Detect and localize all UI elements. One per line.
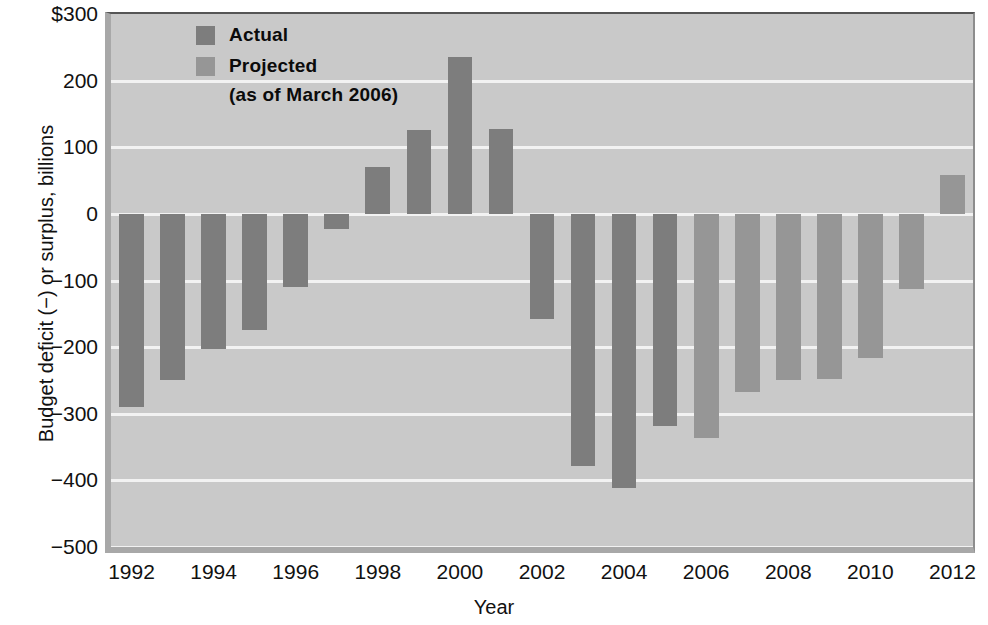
legend-swatch-projected-icon [196,57,215,76]
bar-2004 [612,214,637,488]
legend-note-projected-date: (as of March 2006) [229,84,398,106]
y-tick-300: $300 [2,3,98,24]
bar-2007 [735,214,760,392]
x-tick-2006: 2006 [661,560,751,584]
legend-item-projected: Projected [196,55,398,77]
gridline [111,413,973,416]
bar-2001 [489,129,514,214]
gridline [111,546,973,549]
x-tick-2004: 2004 [579,560,669,584]
bar-2005 [653,214,678,426]
x-tick-1998: 1998 [333,560,423,584]
x-axis-title: Year [0,596,988,619]
bar-1998 [365,167,390,214]
bar-2010 [858,214,883,358]
bar-1997 [324,214,349,229]
bar-1993 [160,214,185,381]
bar-1999 [407,130,432,214]
bar-2011 [899,214,924,289]
gridline [111,479,973,482]
legend-label-actual: Actual [229,24,288,46]
chart-legend: Actual Projected (as of March 2006) [196,24,398,106]
x-tick-2000: 2000 [415,560,505,584]
bar-2002 [530,214,555,319]
bar-2003 [571,214,596,466]
x-tick-2008: 2008 [743,560,833,584]
legend-label-projected: Projected [229,55,317,77]
x-tick-1992: 1992 [87,560,177,584]
bar-2012 [940,175,965,214]
x-tick-2002: 2002 [497,560,587,584]
y-axis-title: Budget deficit (−) or surplus, billions [35,24,58,544]
budget-deficit-chart: $3002001000−100−200−300−400−500 Budget d… [0,0,988,625]
bar-2009 [817,214,842,379]
x-tick-2012: 2012 [907,560,988,584]
legend-swatch-actual-icon [196,26,215,45]
legend-item-actual: Actual [196,24,398,46]
gridline [111,346,973,349]
bar-2008 [776,214,801,381]
x-tick-1996: 1996 [251,560,341,584]
bar-1996 [283,214,308,287]
bar-2006 [694,214,719,438]
bar-1994 [201,214,226,349]
x-tick-1994: 1994 [169,560,259,584]
x-tick-2010: 2010 [825,560,915,584]
bar-1992 [119,214,144,407]
bar-1995 [242,214,267,331]
gridline [111,146,973,149]
bar-2000 [448,57,473,214]
